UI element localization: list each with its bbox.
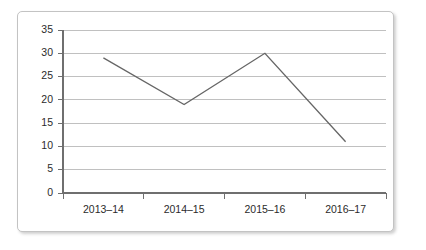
y-tick-label-0: 0 xyxy=(47,186,53,198)
y-tick-label-25: 25 xyxy=(41,69,53,81)
x-tick-label-2016-17: 2016–17 xyxy=(325,203,366,215)
chart-card: 35 30 25 20 15 10 5 0 2013–14 2014–15 20… xyxy=(17,11,394,232)
y-tick-label-30: 30 xyxy=(41,46,53,58)
line-chart: 35 30 25 20 15 10 5 0 2013–14 2014–15 20… xyxy=(18,12,395,233)
x-tick-marks xyxy=(63,193,386,199)
screenshot-root: 35 30 25 20 15 10 5 0 2013–14 2014–15 20… xyxy=(0,0,426,250)
y-tick-marks xyxy=(58,30,63,193)
x-tick-label-2013-14: 2013–14 xyxy=(83,203,124,215)
x-tick-label-2014-15: 2014–15 xyxy=(164,203,205,215)
y-tick-label-20: 20 xyxy=(41,93,53,105)
y-tick-labels: 35 30 25 20 15 10 5 0 xyxy=(41,23,53,198)
x-tick-labels: 2013–14 2014–15 2015–16 2016–17 xyxy=(83,203,366,215)
y-tick-label-35: 35 xyxy=(41,23,53,35)
data-series-line xyxy=(103,53,345,141)
x-tick-label-2015-16: 2015–16 xyxy=(244,203,285,215)
y-tick-label-5: 5 xyxy=(47,162,53,174)
y-tick-label-15: 15 xyxy=(41,116,53,128)
gridlines xyxy=(63,30,386,170)
y-tick-label-10: 10 xyxy=(41,139,53,151)
